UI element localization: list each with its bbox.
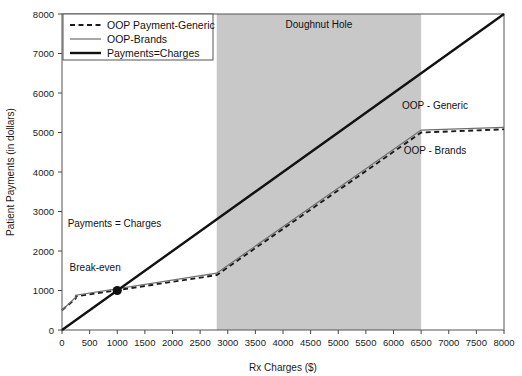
x-tick-label: 4000 bbox=[272, 337, 293, 348]
x-tick-label: 4500 bbox=[300, 337, 321, 348]
annotation-4: OOP - Brands bbox=[404, 145, 467, 156]
x-tick-label: 6500 bbox=[411, 337, 432, 348]
data-markers bbox=[113, 286, 122, 295]
x-tick-label: 3000 bbox=[217, 337, 238, 348]
x-tick-label: 500 bbox=[82, 337, 98, 348]
chart-container: 0500100015002000250030003500400045005000… bbox=[0, 0, 522, 376]
y-tick-label: 7000 bbox=[33, 48, 54, 59]
y-tick-label: 3000 bbox=[33, 206, 54, 217]
y-tick-label: 0 bbox=[49, 325, 54, 336]
x-tick-label: 0 bbox=[59, 337, 64, 348]
x-tick-label: 1000 bbox=[107, 337, 128, 348]
annotation-1: Payments = Charges bbox=[68, 218, 162, 229]
y-tick-label: 4000 bbox=[33, 167, 54, 178]
legend-label-2: Payments=Charges bbox=[107, 47, 200, 59]
y-tick-label: 5000 bbox=[33, 127, 54, 138]
x-tick-label: 5500 bbox=[355, 337, 376, 348]
legend-label-0: OOP Payment-Generic bbox=[107, 19, 215, 31]
annotation-3: OOP - Generic bbox=[402, 100, 468, 111]
y-tick-label: 2000 bbox=[33, 246, 54, 257]
x-tick-label: 2500 bbox=[190, 337, 211, 348]
y-tick-label: 6000 bbox=[33, 88, 54, 99]
x-tick-label: 6000 bbox=[383, 337, 404, 348]
annotation-2: Break-even bbox=[70, 262, 121, 273]
line-chart: 0500100015002000250030003500400045005000… bbox=[0, 0, 522, 376]
x-tick-label: 8000 bbox=[493, 337, 514, 348]
x-tick-label: 5000 bbox=[328, 337, 349, 348]
x-axis-title: Rx Charges ($) bbox=[249, 362, 317, 373]
y-tick-label: 8000 bbox=[33, 9, 54, 20]
doughnut-hole-shading bbox=[217, 14, 421, 330]
chart-legend: OOP Payment-GenericOOP-BrandsPayments=Ch… bbox=[63, 14, 215, 60]
x-tick-label: 7500 bbox=[466, 337, 487, 348]
x-tick-label: 2000 bbox=[162, 337, 183, 348]
x-tick-label: 7000 bbox=[438, 337, 459, 348]
y-axis-title: Patient Payments (in dollars) bbox=[5, 108, 16, 236]
annotation-0: Doughnut Hole bbox=[286, 19, 353, 30]
x-tick-label: 1500 bbox=[134, 337, 155, 348]
doughnut-hole-band bbox=[217, 14, 421, 330]
y-tick-label: 1000 bbox=[33, 285, 54, 296]
x-tick-label: 3500 bbox=[245, 337, 266, 348]
legend-label-1: OOP-Brands bbox=[107, 33, 167, 45]
break-even-point bbox=[113, 286, 122, 295]
